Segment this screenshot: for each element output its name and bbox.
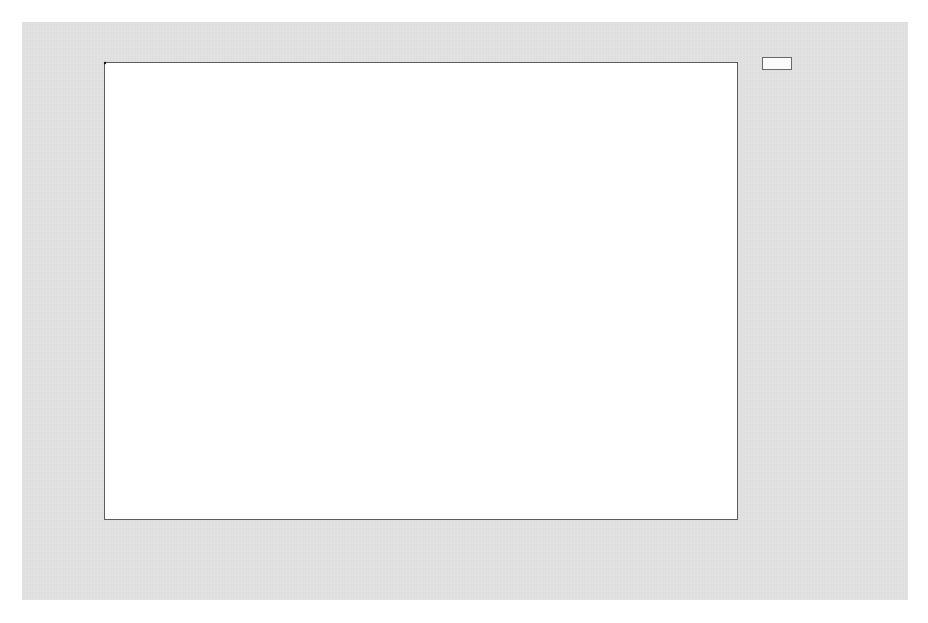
normal-fit-line — [105, 63, 739, 521]
screenshot-page — [0, 0, 928, 623]
plot-area — [104, 62, 738, 520]
normal-probability-plot — [0, 0, 928, 623]
statistics-box — [762, 57, 792, 70]
